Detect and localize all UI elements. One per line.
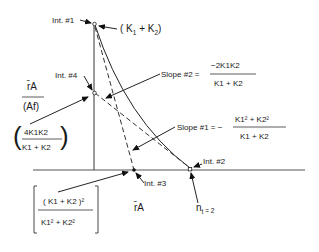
slope2-denominator: K1 + K2 (214, 79, 243, 88)
int4-paren-left: ( (13, 121, 22, 151)
int4-value-numerator: 4K1K2 (24, 128, 49, 137)
y-axis-label-numerator: r̄A (26, 80, 37, 92)
int2-label: Int. #2 (203, 157, 226, 166)
int3-point (132, 168, 136, 172)
slope2-numerator: −2K1K2 (211, 61, 240, 70)
int4-point (93, 91, 97, 95)
slope2-arrow-icon (106, 74, 160, 98)
int4-paren-right: ) (60, 121, 69, 151)
nt-label: nt = 2 (196, 202, 215, 215)
int2-point (188, 168, 191, 171)
int1-label: Int. #1 (52, 16, 75, 25)
int1-point (93, 22, 97, 26)
int3-bracket-right (95, 186, 98, 233)
slope1-numerator: K1² + K2² (235, 115, 269, 124)
int3-label: Int. #3 (144, 179, 167, 188)
int3-value-arrow-icon (58, 172, 128, 192)
int4-label: Int. #4 (55, 71, 78, 80)
int3-bracket-left (34, 186, 37, 233)
slope1-arrow-icon (133, 127, 175, 150)
slope1-label: Slope #1 = − (177, 123, 223, 132)
int3-arrow-icon (136, 173, 144, 183)
nt-arrow-icon (191, 173, 198, 203)
slope2-label: Slope #2 = (161, 70, 200, 79)
kinetics-intercept-diagram: Int. #1 ( K1 + K2) Int. #4 r̄A (Af) ( 4K… (0, 0, 319, 252)
y-axis-label-denominator: (Af) (23, 101, 39, 112)
k1k2-arrow-icon (99, 26, 117, 29)
int4-value-denominator: K1 + K2 (22, 143, 51, 152)
int2-arrow-icon (194, 164, 202, 167)
int1-arrow-icon (80, 20, 91, 23)
int3-value-denominator: K1² + K2² (41, 218, 75, 227)
slope1-denominator: K1 + K2 (240, 132, 269, 141)
int1-value: ( K1 + K2) (120, 23, 161, 36)
int3-value-numerator: ( K1 + K2 )² (43, 197, 84, 206)
int4-arrow-icon (84, 76, 92, 90)
x-axis-label: r̄A (133, 201, 144, 213)
